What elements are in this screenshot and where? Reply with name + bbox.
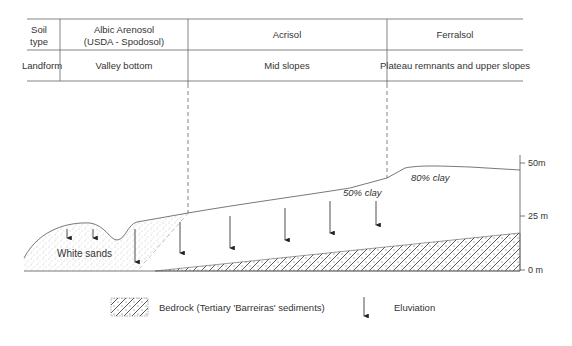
axis-tick-0m: 0 m — [528, 265, 543, 275]
soil-catena-diagram: Soil type Landform Albic Arenosol (USDA … — [0, 0, 572, 346]
axis-tick-50m: 50m — [528, 158, 546, 168]
white-sands-label: White sands — [57, 248, 112, 259]
landform-col2: Mid slopes — [264, 60, 310, 71]
soil-col2: Acrisol — [273, 29, 302, 40]
landform-col3: Plateau remnants and upper slopes — [380, 60, 530, 71]
clay-80-label: 80% clay — [411, 172, 451, 183]
white-sands-area — [24, 213, 188, 271]
row-header-soil-line2: type — [30, 36, 48, 47]
bedrock-legend-label: Bedrock (Tertiary 'Barreiras' sediments) — [159, 302, 325, 313]
row-header-soil-line1: Soil — [31, 24, 47, 35]
elevation-axis — [520, 155, 525, 271]
boundary-dashes — [137, 84, 387, 271]
axis-tick-25m: 25 m — [528, 211, 548, 221]
landform-col1: Valley bottom — [96, 60, 153, 71]
bedrock-legend-swatch — [111, 298, 148, 316]
row-header-landform: Landform — [22, 60, 62, 71]
soil-col1-line2: (USDA - Spodosol) — [84, 36, 164, 47]
bedrock-area — [155, 233, 520, 271]
eluviation-legend-label: Eluviation — [394, 302, 435, 313]
soil-col1-line1: Albic Arenosol — [94, 24, 154, 35]
soil-col3: Ferralsol — [437, 29, 474, 40]
clay-50-label: 50% clay — [343, 187, 383, 198]
